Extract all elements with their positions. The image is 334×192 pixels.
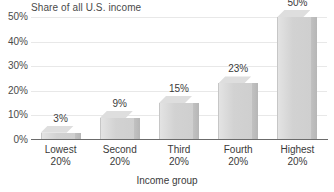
y-axis-tick-label: 40% — [0, 36, 28, 47]
bar-front-face — [100, 118, 134, 140]
bar-value-label: 3% — [31, 113, 90, 124]
bar-front-face — [159, 103, 193, 140]
bar[interactable] — [277, 10, 310, 140]
bar[interactable] — [100, 111, 133, 140]
x-axis-category-label: Third20% — [149, 144, 208, 168]
y-axis-tick-label: 0% — [0, 134, 28, 145]
bar-front-face — [277, 17, 311, 140]
category-label-line1: Highest — [268, 144, 327, 156]
category-label-line1: Lowest — [31, 144, 90, 156]
x-axis-category-label: Highest20% — [268, 144, 327, 168]
category-label-line1: Fourth — [209, 144, 268, 156]
chart-title: Share of all U.S. income — [31, 2, 141, 13]
bar-chart: Share of all U.S. income 0%10%20%30%40%5… — [0, 0, 334, 192]
bar[interactable] — [218, 76, 251, 140]
bar-top-face — [277, 10, 310, 17]
x-axis-line — [31, 139, 328, 140]
category-label-line1: Third — [149, 144, 208, 156]
bar-side-face — [192, 103, 199, 140]
bar-side-face — [251, 83, 258, 140]
category-label-line1: Second — [90, 144, 149, 156]
bar-top-face — [159, 96, 192, 103]
bar[interactable] — [159, 96, 192, 140]
y-axis-tick-label: 20% — [0, 85, 28, 96]
category-label-line2: 20% — [209, 156, 268, 168]
bar[interactable] — [41, 126, 74, 140]
bar-front-face — [218, 83, 252, 140]
category-label-line2: 20% — [90, 156, 149, 168]
x-axis-category-label: Fourth20% — [209, 144, 268, 168]
bar-value-label: 23% — [209, 63, 268, 74]
x-axis-category-label: Second20% — [90, 144, 149, 168]
x-axis-title: Income group — [0, 175, 334, 186]
bar-side-face — [133, 118, 140, 140]
bar-top-face — [41, 126, 74, 133]
bar-side-face — [310, 17, 317, 140]
y-axis-tick-label: 50% — [0, 11, 28, 22]
x-axis-category-label: Lowest20% — [31, 144, 90, 168]
category-label-line2: 20% — [268, 156, 327, 168]
y-axis-tick-label: 30% — [0, 60, 28, 71]
category-label-line2: 20% — [149, 156, 208, 168]
bar-top-face — [218, 76, 251, 83]
bar-top-face — [100, 111, 133, 118]
category-label-line2: 20% — [31, 156, 90, 168]
y-axis-tick-label: 10% — [0, 109, 28, 120]
bar-value-label: 15% — [149, 83, 208, 94]
bar-value-label: 9% — [90, 98, 149, 109]
bar-value-label: 50% — [268, 0, 327, 8]
